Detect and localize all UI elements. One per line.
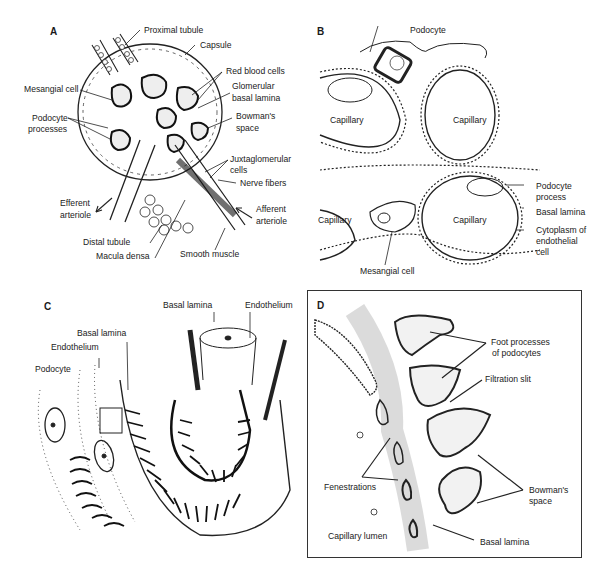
label-efferent: Efferent (60, 198, 90, 208)
label-podocyte: Podocyte (410, 25, 446, 35)
panel-a: A Proximal tubule Capsule Red blood cell… (0, 0, 300, 290)
label-of-podocytes: of podocytes (492, 348, 541, 358)
label-cells: cells (230, 165, 247, 175)
panel-c: C Basal lamina Endothelium Basal lamina … (0, 290, 305, 573)
label-fenestrations: Fenestrations (324, 482, 376, 492)
capillary-cross-section-drawing (300, 0, 600, 290)
label-proximal-tubule: Proximal tubule (144, 25, 203, 35)
label-cytoplasm-of: Cytoplasm of (536, 225, 586, 235)
label-efferent-arteriole: arteriole (60, 210, 91, 220)
label-foot-processes: Foot processes (491, 337, 550, 347)
label-capillary-top-right: Capillary (453, 115, 486, 125)
renal-corpuscle-drawing (0, 0, 300, 290)
label-podocyte: Podocyte (35, 364, 71, 374)
label-podocyte: Podocyte (32, 113, 68, 123)
label-filtration-slit: Filtration slit (485, 374, 531, 384)
label-mesangial-cell: Mesangial cell (360, 266, 414, 276)
label-capillary-lumen: Capillary lumen (328, 531, 387, 541)
label-glomerular: Glomerular (232, 81, 275, 91)
capillary-loop-3d-drawing (0, 290, 305, 573)
label-basal-lamina: Basal lamina (480, 537, 529, 547)
label-basal-lamina: Basal lamina (536, 207, 585, 217)
label-macula-densa: Macula densa (96, 251, 150, 261)
panel-label-b: B (317, 26, 324, 37)
label-red-blood-cells: Red blood cells (226, 66, 285, 76)
label-space: space (236, 123, 259, 133)
panel-label-c: C (44, 301, 51, 312)
label-juxtaglomerular: Juxtaglomerular (230, 154, 291, 164)
label-afferent-arteriole: arteriole (256, 216, 287, 226)
label-endothelium-top: Endothelium (245, 300, 293, 310)
label-smooth-muscle: Smooth muscle (180, 249, 239, 259)
label-basal-lamina-left: Basal lamina (77, 328, 126, 338)
label-mesangial-cell: Mesangial cell (24, 84, 78, 94)
label-capillary-bottom-left: Capillary (318, 215, 351, 225)
panel-label-a: A (50, 26, 57, 37)
label-podocyte-process-2: process (536, 192, 566, 202)
label-basal-lamina-top: Basal lamina (163, 300, 212, 310)
panel-d: D Foot processes of podocytes Filtration… (300, 290, 600, 573)
label-basal-lamina: basal lamina (232, 93, 280, 103)
label-podocyte-process-1: Podocyte (536, 181, 572, 191)
label-capillary-top-left: Capillary (330, 115, 363, 125)
label-distal-tubule: Distal tubule (83, 237, 130, 247)
label-endothelial: endothelial (536, 236, 578, 246)
label-capillary-bottom-right: Capillary (453, 215, 486, 225)
label-cell: cell (536, 247, 549, 257)
label-endothelium-left: Endothelium (51, 342, 99, 352)
label-bowmans: Bowman's (529, 485, 568, 495)
label-capsule: Capsule (200, 40, 232, 50)
label-bowmans: Bowman's (236, 111, 275, 121)
label-space: space (529, 496, 552, 506)
panel-label-d: D (317, 300, 324, 311)
label-processes: processes (28, 124, 67, 134)
label-nerve-fibers: Nerve fibers (240, 178, 286, 188)
panel-b: B Podocyte Capillary Capillary Capillary… (300, 0, 600, 290)
label-afferent: Afferent (256, 204, 286, 214)
